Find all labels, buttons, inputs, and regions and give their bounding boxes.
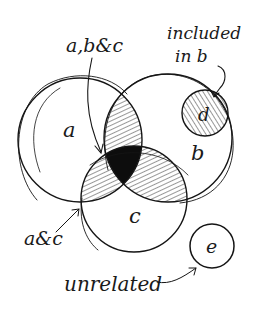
arrow-abc [88, 58, 103, 153]
annotation-unrelated: unrelated [64, 272, 162, 296]
arrow-ac [56, 209, 79, 232]
venn-diagram: a b c d e a,b&c included in b a&c unrela… [0, 0, 253, 313]
arrow-unrelated [157, 268, 196, 283]
label-b: b [191, 141, 204, 165]
label-d: d [198, 104, 210, 125]
annotation-included-line1: included [167, 23, 241, 43]
annotation-included-line2: in b [175, 46, 208, 66]
label-c: c [129, 204, 141, 228]
label-a: a [63, 118, 76, 142]
annotation-abc: a,b&c [66, 34, 123, 56]
label-e: e [206, 235, 217, 257]
